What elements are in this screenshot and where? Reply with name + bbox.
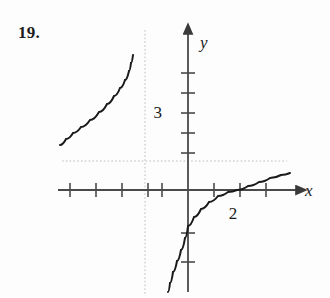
x-tick-label-2: 2 xyxy=(229,204,238,223)
curve-left-branch xyxy=(60,55,133,145)
x-axis-label: x xyxy=(304,181,313,200)
graph-plot: x y 3 2 xyxy=(0,0,330,298)
figure-container: 19. xyxy=(0,0,330,298)
y-axis xyxy=(181,33,195,292)
x-axis xyxy=(58,183,297,197)
asymptote-group xyxy=(62,30,287,294)
y-axis-label: y xyxy=(198,33,208,52)
y-tick-label-3: 3 xyxy=(154,103,163,122)
